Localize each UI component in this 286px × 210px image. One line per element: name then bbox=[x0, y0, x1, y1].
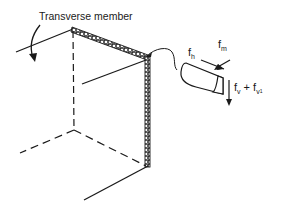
plus-sign: + bbox=[241, 81, 254, 93]
fh-label: fh bbox=[188, 47, 195, 58]
hidden-vertical-line bbox=[73, 31, 74, 130]
hidden-left-line bbox=[20, 130, 74, 153]
fm-label: fm bbox=[218, 39, 227, 50]
detail-leader-line bbox=[147, 49, 177, 70]
vertical-weld bbox=[145, 57, 150, 167]
transverse-member-weld bbox=[71, 27, 148, 60]
fm-sub: m bbox=[221, 45, 227, 52]
fv-sub: v bbox=[237, 88, 241, 95]
bottom-member-line bbox=[84, 166, 148, 200]
transverse-member-label: Transverse member bbox=[39, 11, 133, 22]
weld-diagram bbox=[0, 0, 286, 210]
hidden-right-line bbox=[74, 130, 146, 166]
fv-sum-label: fv + fv1 bbox=[234, 82, 262, 93]
fh-sub: h bbox=[191, 53, 195, 60]
left-top-member-line bbox=[16, 29, 73, 52]
inner-top-line bbox=[82, 60, 146, 84]
fv-force-arrow-icon bbox=[226, 80, 232, 106]
